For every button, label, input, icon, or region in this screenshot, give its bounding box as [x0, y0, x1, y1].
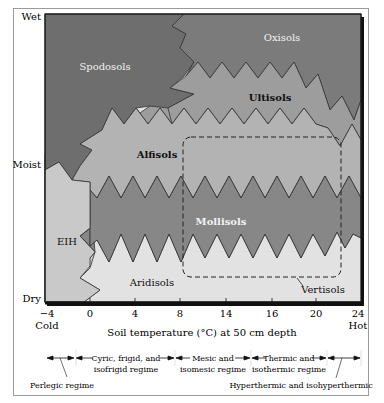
x-end-label-hot: Hot [349, 320, 368, 331]
x-tick-label: −4 [40, 308, 55, 319]
x-tick-label: 8 [177, 308, 183, 319]
regime-hyperthermic: Hyperthermic and isohyperthermic [229, 381, 373, 390]
x-tick-label: 24 [352, 308, 365, 319]
x-tick-label: 16 [266, 308, 279, 319]
x-end-label-cold: Cold [35, 320, 59, 331]
regime-perlegic: Perlegic regime [30, 381, 94, 390]
label-spodosols: Spodosols [79, 61, 130, 72]
y-label-dry: Dry [23, 293, 42, 304]
y-label-wet: Wet [22, 11, 41, 22]
label-vertisols: Vertisols [300, 284, 345, 295]
label-oxisols: Oxisols [264, 32, 301, 43]
regime-cyric-line2: isofrigid regime [94, 365, 159, 374]
label-mollisols: Mollisols [196, 216, 247, 227]
y-label-moist: Moist [12, 159, 41, 170]
regime-thermic-line2: isothermic regime [252, 365, 326, 374]
x-tick-label: 0 [87, 308, 93, 319]
label-aridisols: Aridisols [129, 277, 174, 288]
x-axis-title: Soil temperature (°C) at 50 cm depth [107, 327, 297, 338]
x-tick-label: 4 [132, 308, 138, 319]
regime-mesic-line2: isomesic regime [180, 365, 246, 374]
regime-thermic-line1: Thermic and [263, 354, 314, 363]
label-ultisols: Ultisols [249, 92, 292, 103]
label-alfisols: Alfisols [136, 149, 178, 160]
regime-mesic-line1: Mesic and [192, 354, 234, 363]
x-tick-label: 20 [310, 308, 323, 319]
soil-order-diagram: Spodosols Oxisols Ultisols Alfisols Moll… [0, 0, 384, 403]
x-tick-label: 14 [220, 308, 233, 319]
regime-cyric-line1: Cyric, frigid, and [92, 354, 161, 363]
label-eih: EIH [57, 236, 77, 247]
